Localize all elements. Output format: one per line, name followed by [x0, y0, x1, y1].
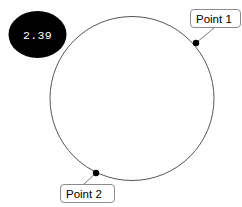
main-circle-outline [50, 17, 214, 181]
point-2-dot[interactable] [93, 170, 99, 176]
circle-annotation-diagram: Point 1 Point 2 2.39 [0, 0, 242, 207]
point-1-dot[interactable] [193, 40, 199, 46]
point-1-leader-line [196, 28, 214, 43]
point-1-label-text: Point 1 [196, 13, 232, 25]
value-badge-text: 2.39 [23, 29, 52, 42]
point-2-label-text: Point 2 [66, 188, 102, 200]
diagram-canvas: Point 1 Point 2 2.39 [0, 0, 242, 207]
